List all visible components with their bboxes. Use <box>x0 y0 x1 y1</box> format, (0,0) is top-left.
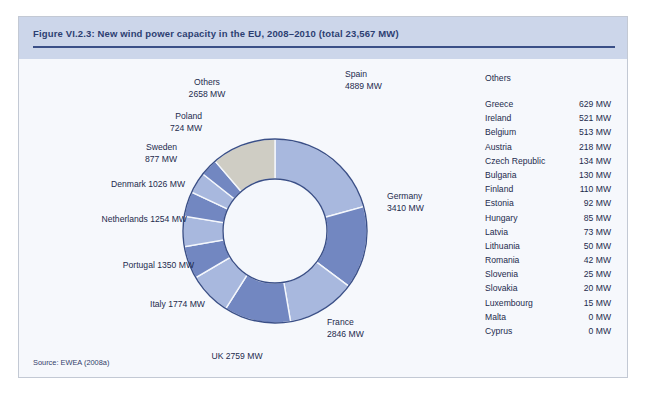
country-capacity: 513 MW <box>567 127 611 141</box>
country-name: Estonia <box>485 198 567 212</box>
donut-slice-label: Poland 724 MW <box>92 111 202 134</box>
donut-slice-label: Portugal 1350 MW <box>49 260 194 272</box>
donut-hole <box>223 179 327 283</box>
table-row: Hungary85 MW <box>485 213 611 227</box>
country-name: Slovakia <box>485 283 567 297</box>
source-note: Source: EWEA (2008a) <box>33 358 109 367</box>
donut-slice-label: Sweden 877 MW <box>67 142 177 165</box>
table-row: Czech Republic134 MW <box>485 156 611 170</box>
title-divider <box>33 46 615 48</box>
country-capacity: 130 MW <box>567 170 611 184</box>
donut-slice-label: Italy 1774 MW <box>85 299 205 311</box>
donut-slice-label: Netherlands 1254 MW <box>27 214 187 226</box>
table-row: Slovenia25 MW <box>485 269 611 283</box>
country-name: Slovenia <box>485 269 567 283</box>
country-name: Luxembourg <box>485 298 567 312</box>
country-name: Belgium <box>485 127 567 141</box>
country-name: Finland <box>485 184 567 198</box>
table-row: Romania42 MW <box>485 255 611 269</box>
donut-slice-label: Denmark 1026 MW <box>37 179 185 191</box>
country-capacity: 73 MW <box>567 227 611 241</box>
country-name: Lithuania <box>485 241 567 255</box>
donut-slice-label: Germany 3410 MW <box>387 191 482 214</box>
country-name: Greece <box>485 99 567 113</box>
table-row: Estonia92 MW <box>485 198 611 212</box>
country-name: Latvia <box>485 227 567 241</box>
figure-body: Spain 4889 MWGermany 3410 MWFrance 2846 … <box>19 59 627 377</box>
country-capacity: 20 MW <box>567 283 611 297</box>
country-capacity: 0 MW <box>567 326 611 340</box>
country-name: Czech Republic <box>485 156 567 170</box>
country-capacity: 85 MW <box>567 213 611 227</box>
figure-header-band: Figure VI.2.3: New wind power capacity i… <box>19 17 627 59</box>
table-row: Finland110 MW <box>485 184 611 198</box>
page-title: Figure VI.2.3: New wind power capacity i… <box>33 28 399 39</box>
country-capacity: 629 MW <box>567 99 611 113</box>
donut-slice-label: Others 2658 MW <box>152 77 262 100</box>
table-row: Lithuania50 MW <box>485 241 611 255</box>
country-capacity: 42 MW <box>567 255 611 269</box>
country-name: Romania <box>485 255 567 269</box>
table-row: Luxembourg15 MW <box>485 298 611 312</box>
country-capacity: 50 MW <box>567 241 611 255</box>
country-capacity: 134 MW <box>567 156 611 170</box>
country-name: Austria <box>485 142 567 156</box>
donut-slice-label: UK 2759 MW <box>182 351 292 363</box>
table-row: Slovakia20 MW <box>485 283 611 297</box>
country-capacity: 15 MW <box>567 298 611 312</box>
country-capacity: 25 MW <box>567 269 611 283</box>
country-capacity: 110 MW <box>567 184 611 198</box>
donut-slice-label: France 2846 MW <box>327 317 422 340</box>
country-capacity: 0 MW <box>567 312 611 326</box>
table-row: Malta0 MW <box>485 312 611 326</box>
country-name: Ireland <box>485 113 567 127</box>
table-row: Greece629 MW <box>485 99 611 113</box>
table-row: Austria218 MW <box>485 142 611 156</box>
country-name: Hungary <box>485 213 567 227</box>
table-row: Cyprus0 MW <box>485 326 611 340</box>
others-table: Greece629 MWIreland521 MWBelgium513 MWAu… <box>485 99 611 340</box>
table-row: Belgium513 MW <box>485 127 611 141</box>
donut-chart: Spain 4889 MWGermany 3410 MWFrance 2846 … <box>27 59 487 379</box>
country-capacity: 521 MW <box>567 113 611 127</box>
country-name: Bulgaria <box>485 170 567 184</box>
donut-slice-label: Spain 4889 MW <box>345 69 440 92</box>
country-name: Malta <box>485 312 567 326</box>
country-capacity: 92 MW <box>567 198 611 212</box>
country-name: Cyprus <box>485 326 567 340</box>
table-row: Latvia73 MW <box>485 227 611 241</box>
country-capacity: 218 MW <box>567 142 611 156</box>
table-row: Bulgaria130 MW <box>485 170 611 184</box>
others-heading: Others <box>485 73 617 83</box>
figure-card: Figure VI.2.3: New wind power capacity i… <box>18 16 628 378</box>
table-row: Ireland521 MW <box>485 113 611 127</box>
others-panel: Others Greece629 MWIreland521 MWBelgium5… <box>485 73 617 340</box>
